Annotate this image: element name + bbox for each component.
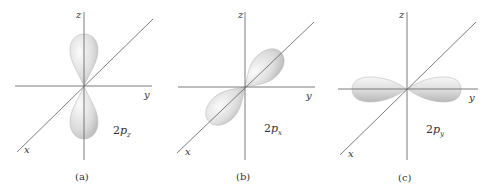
caption-a: (a) <box>75 171 89 182</box>
x-axis <box>177 22 314 153</box>
caption-b: (b) <box>236 171 250 182</box>
x-axis-label: x <box>24 144 30 155</box>
y-axis-label: y <box>143 89 150 100</box>
x-axis-label: x <box>185 146 191 157</box>
left-lobe <box>352 77 407 102</box>
orbital-label: 2py <box>426 123 445 138</box>
orbital-label: 2pz <box>113 124 131 139</box>
z-axis-label: z <box>75 9 82 20</box>
y-axis-label: y <box>305 90 312 101</box>
p-orbitals-figure: z y x 2pz (a) z y x 2px (b) z y x 2py (c… <box>0 0 490 196</box>
right-lobe <box>407 77 461 102</box>
panel-b: z y x 2px (b) <box>177 9 315 182</box>
y-axis-label: y <box>468 92 475 103</box>
caption-c: (c) <box>398 172 412 183</box>
x-axis-label: x <box>348 148 354 159</box>
orbital-label: 2px <box>264 122 282 137</box>
z-axis-label: z <box>237 9 244 20</box>
panel-a: z y x 2pz (a) <box>15 9 153 182</box>
z-axis-label: z <box>398 9 405 20</box>
panel-c: z y x 2py (c) <box>338 9 478 183</box>
